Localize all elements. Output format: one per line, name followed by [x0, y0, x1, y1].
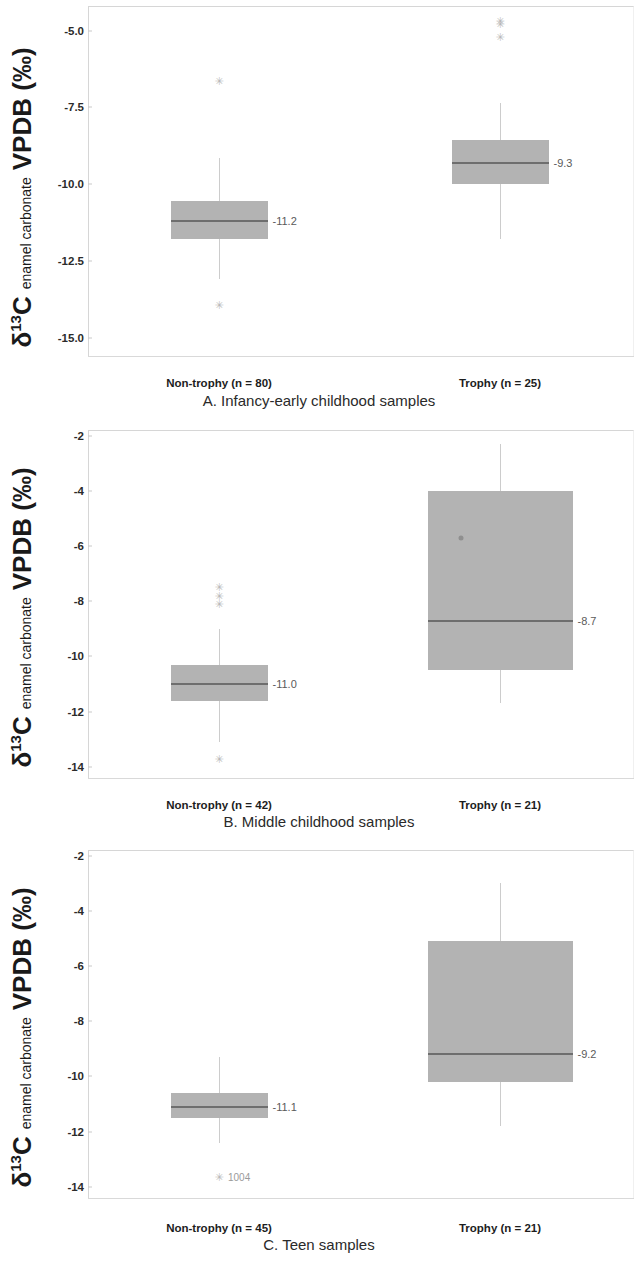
y-tick-mark — [88, 1186, 92, 1187]
y-ticks-c: -2-4-6-8-10-12-14 — [44, 840, 84, 1267]
x-tick-label: Non-trophy (n = 80) — [166, 377, 272, 389]
y-tick-label: -6 — [74, 960, 84, 972]
outlier-marker: ✳ — [215, 754, 224, 763]
y-axis-title-b: δ13C enamel carbonate VPDB (‰) — [0, 420, 44, 815]
y-tick-label: -14 — [67, 1181, 84, 1193]
y-tick-label: -4 — [74, 485, 84, 497]
y-tick-label: -15.0 — [58, 332, 84, 344]
x-tick-label: Non-trophy (n = 45) — [166, 1222, 272, 1234]
y-tick-mark — [88, 435, 92, 436]
median-line — [452, 162, 549, 164]
median-line — [171, 220, 268, 222]
y-tick-mark — [88, 1021, 92, 1022]
y-axis-vpdb-a: VPDB (‰) — [7, 47, 38, 170]
y-tick-mark — [88, 184, 92, 185]
outlier-marker: ✳ — [215, 77, 224, 86]
median-value-label: -11.0 — [273, 678, 297, 690]
panel-c: δ13C enamel carbonate VPDB (‰) -2-4-6-8-… — [0, 840, 638, 1267]
y-tick-label: -10 — [67, 650, 84, 662]
y-tick-label: -2 — [74, 850, 84, 862]
y-tick-label: -12 — [67, 1126, 84, 1138]
y-ticks-b: -2-4-6-8-10-12-14 — [44, 420, 84, 840]
y-tick-mark — [88, 1131, 92, 1132]
y-tick-mark — [88, 546, 92, 547]
y-axis-delta13c-b: δ13C — [7, 716, 38, 767]
y-axis-title-a: δ13C enamel carbonate VPDB (‰) — [0, 0, 44, 395]
y-tick-label: -10 — [67, 1070, 84, 1082]
median-line — [171, 683, 268, 685]
y-axis-title-c: δ13C enamel carbonate VPDB (‰) — [0, 840, 44, 1235]
y-tick-mark — [88, 1076, 92, 1077]
y-tick-label: -4 — [74, 905, 84, 917]
y-tick-mark — [88, 490, 92, 491]
panel-caption-b: B. Middle childhood samples — [0, 813, 638, 830]
outlier-dot-marker — [459, 535, 464, 540]
y-tick-label: -12.5 — [58, 255, 84, 267]
y-axis-enamel-carbonate-a: enamel carbonate — [18, 177, 34, 289]
outlier-marker: ✳ — [215, 1173, 224, 1182]
median-value-label: -11.1 — [273, 1101, 297, 1113]
median-value-label: -9.2 — [578, 1048, 597, 1060]
y-tick-label: -12 — [67, 706, 84, 718]
y-tick-label: -7.5 — [64, 101, 84, 113]
y-axis-enamel-carbonate-c: enamel carbonate — [18, 1017, 34, 1129]
y-tick-mark — [88, 337, 92, 338]
y-tick-label: -6 — [74, 540, 84, 552]
plot-area-a — [88, 6, 634, 356]
median-line — [428, 620, 573, 622]
y-tick-mark — [88, 30, 92, 31]
y-axis-delta13c-c: δ13C — [7, 1136, 38, 1187]
outlier-case-label: 1004 — [228, 1172, 250, 1183]
outlier-marker: ✳ — [215, 600, 224, 609]
median-value-label: -9.3 — [554, 157, 573, 169]
y-tick-mark — [88, 766, 92, 767]
x-tick-label: Trophy (n = 21) — [459, 799, 541, 811]
y-tick-label: -10.0 — [58, 178, 84, 190]
y-axis-vpdb-c: VPDB (‰) — [7, 887, 38, 1010]
y-ticks-a: -5.0-7.5-10.0-12.5-15.0 — [44, 0, 84, 420]
outlier-marker: ✳ — [496, 20, 505, 29]
x-axis-baseline — [88, 356, 634, 357]
outlier-marker: ✳ — [496, 32, 505, 41]
box-rect — [428, 491, 573, 671]
boxplot-figure: δ13C enamel carbonate VPDB (‰) -5.0-7.5-… — [0, 0, 638, 1267]
x-tick-label: Non-trophy (n = 42) — [166, 799, 272, 811]
panel-caption-a: A. Infancy-early childhood samples — [0, 392, 638, 409]
x-axis-baseline — [88, 1198, 634, 1199]
y-tick-label: -8 — [74, 1015, 84, 1027]
median-line — [428, 1053, 573, 1055]
y-tick-mark — [88, 711, 92, 712]
y-tick-mark — [88, 966, 92, 967]
median-line — [171, 1106, 268, 1108]
y-tick-label: -2 — [74, 430, 84, 442]
y-tick-mark — [88, 260, 92, 261]
panel-caption-c: C. Teen samples — [0, 1236, 638, 1253]
x-axis-baseline — [88, 778, 634, 779]
y-axis-enamel-carbonate-b: enamel carbonate — [18, 597, 34, 709]
median-value-label: -11.2 — [273, 215, 297, 227]
box-rect — [428, 941, 573, 1082]
y-tick-mark — [88, 107, 92, 108]
y-tick-mark — [88, 910, 92, 911]
y-tick-label: -8 — [74, 595, 84, 607]
outlier-marker: ✳ — [215, 301, 224, 310]
panel-b: δ13C enamel carbonate VPDB (‰) -2-4-6-8-… — [0, 420, 638, 840]
median-value-label: -8.7 — [578, 615, 597, 627]
y-tick-mark — [88, 656, 92, 657]
y-axis-vpdb-b: VPDB (‰) — [7, 467, 38, 590]
y-tick-label: -5.0 — [64, 25, 84, 37]
y-tick-mark — [88, 601, 92, 602]
y-tick-mark — [88, 855, 92, 856]
y-tick-label: -14 — [67, 761, 84, 773]
x-tick-label: Trophy (n = 25) — [459, 377, 541, 389]
x-tick-label: Trophy (n = 21) — [459, 1222, 541, 1234]
y-axis-delta13c-a: δ13C — [7, 296, 38, 347]
panel-a: δ13C enamel carbonate VPDB (‰) -5.0-7.5-… — [0, 0, 638, 420]
